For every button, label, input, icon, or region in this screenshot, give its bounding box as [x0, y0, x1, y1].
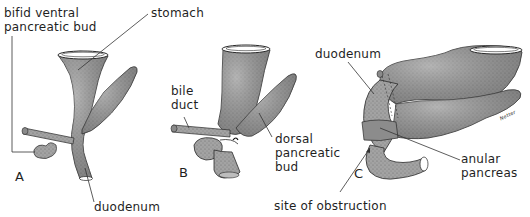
label-line: anular: [461, 152, 517, 166]
label-dorsal-pancreatic-bud: dorsal pancreatic bud: [275, 132, 340, 174]
label-line: pancreatic bud: [4, 20, 97, 34]
label-line: bifid ventral: [4, 6, 97, 20]
label-bifid-ventral-pancreatic-bud: bifid ventral pancreatic bud: [4, 6, 97, 34]
label-anular-pancreas: anular pancreas: [461, 152, 517, 180]
label-line: duct: [171, 98, 198, 112]
label-bile-duct: bile duct: [171, 84, 198, 112]
label-duodenum-c: duodenum: [315, 47, 381, 61]
label-line: site of obstruction: [274, 199, 387, 213]
panel-letter-a: A: [15, 169, 24, 184]
annular-pancreas-figure: bifid ventral pancreatic bud stomach duo…: [0, 0, 530, 217]
label-stomach: stomach: [151, 6, 204, 20]
label-line: bud: [275, 160, 340, 174]
label-site-of-obstruction: site of obstruction: [274, 199, 387, 213]
label-line: pancreas: [461, 166, 517, 180]
panel-c-leader-duodenum: [348, 62, 374, 94]
label-line: stomach: [151, 6, 204, 20]
label-line: duodenum: [94, 200, 160, 214]
panel-c-lower-duodenum: [366, 145, 426, 179]
label-line: bile: [171, 84, 198, 98]
panel-letter-c: C: [354, 166, 363, 181]
panel-a-bile-duct: [23, 128, 74, 144]
panel-a-bifid-ventral-bud: [34, 143, 57, 159]
panel-a-drawing: [12, 14, 148, 202]
label-line: pancreatic: [275, 146, 340, 160]
label-line: dorsal: [275, 132, 340, 146]
label-line: duodenum: [315, 47, 381, 61]
label-duodenum-a: duodenum: [94, 200, 160, 214]
panel-c-anular-ring: [362, 120, 398, 141]
panel-letter-b: B: [179, 165, 188, 180]
panel-c-duodenum-loop: [364, 80, 398, 152]
